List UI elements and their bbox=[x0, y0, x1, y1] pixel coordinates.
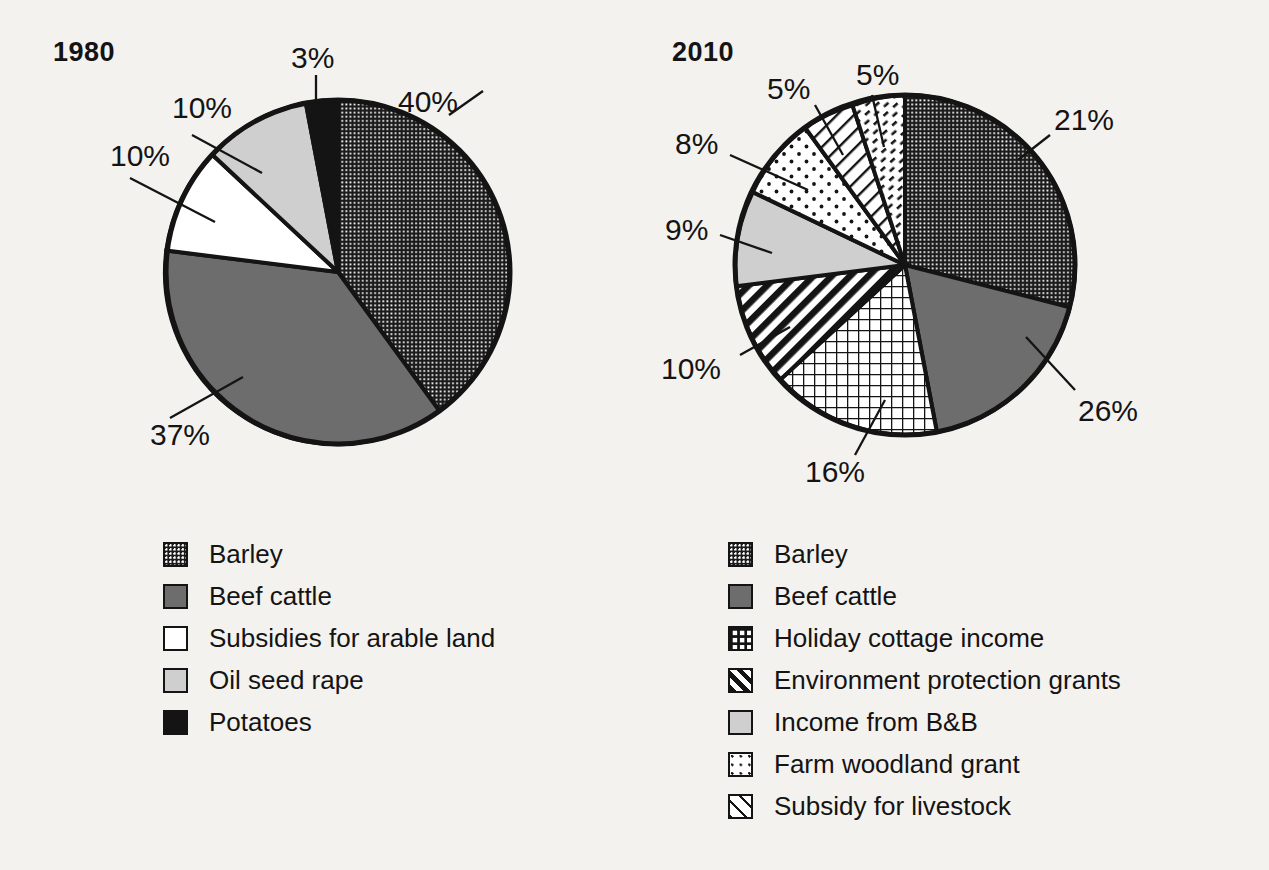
legend-label: Beef cattle bbox=[774, 583, 897, 609]
pct-label-1980-oilseed: 10% bbox=[172, 91, 232, 125]
swatch-barley-icon bbox=[163, 542, 188, 567]
pct-label-2010-woodland: 8% bbox=[675, 127, 718, 161]
legend-label: Income from B&B bbox=[774, 709, 978, 735]
pct-label-1980-barley: 40% bbox=[398, 85, 458, 119]
swatch-subsidy-for-livestock-icon bbox=[728, 794, 753, 819]
legend-label: Subsidies for arable land bbox=[209, 625, 495, 651]
legend-label: Farm woodland grant bbox=[774, 751, 1020, 777]
swatch-income-from-bnb-icon bbox=[728, 710, 753, 735]
legend-item-barley[interactable]: Barley bbox=[163, 533, 495, 575]
pct-label-2010-extra: 5% bbox=[856, 58, 899, 92]
pct-label-2010-environment: 10% bbox=[661, 352, 721, 386]
swatch-beef-cattle-icon bbox=[728, 584, 753, 609]
pct-label-2010-beef: 26% bbox=[1078, 394, 1138, 428]
swatch-oil-seed-rape-icon bbox=[163, 668, 188, 693]
legend-item-barley[interactable]: Barley bbox=[728, 533, 1121, 575]
legend-item-income-from-bnb[interactable]: Income from B&B bbox=[728, 701, 1121, 743]
swatch-potatoes-icon bbox=[163, 710, 188, 735]
swatch-beef-cattle-icon bbox=[163, 584, 188, 609]
pct-label-2010-livestock: 5% bbox=[767, 72, 810, 106]
legend-item-subsidy-for-livestock[interactable]: Subsidy for livestock bbox=[728, 785, 1121, 827]
legend-item-beef-cattle[interactable]: Beef cattle bbox=[728, 575, 1121, 617]
legend-label: Beef cattle bbox=[209, 583, 332, 609]
legend-1980: Barley Beef cattle Subsidies for arable … bbox=[163, 533, 495, 743]
legend-item-beef-cattle[interactable]: Beef cattle bbox=[163, 575, 495, 617]
legend-label: Environment protection grants bbox=[774, 667, 1121, 693]
pct-label-1980-beef: 37% bbox=[150, 418, 210, 452]
pie-2010 bbox=[735, 95, 1075, 435]
swatch-barley-icon bbox=[728, 542, 753, 567]
pct-label-1980-subsidies: 10% bbox=[110, 139, 170, 173]
pct-label-2010-barley: 21% bbox=[1054, 103, 1114, 137]
legend-2010: Barley Beef cattle Holiday cottage incom… bbox=[728, 533, 1121, 827]
legend-label: Barley bbox=[209, 541, 283, 567]
legend-label: Potatoes bbox=[209, 709, 312, 735]
swatch-environment-protection-grants-icon bbox=[728, 668, 753, 693]
legend-item-environment-protection-grants[interactable]: Environment protection grants bbox=[728, 659, 1121, 701]
legend-label: Holiday cottage income bbox=[774, 625, 1044, 651]
legend-item-subsidies-arable-land[interactable]: Subsidies for arable land bbox=[163, 617, 495, 659]
legend-item-oil-seed-rape[interactable]: Oil seed rape bbox=[163, 659, 495, 701]
page-root: 1980 2010 bbox=[0, 0, 1269, 870]
legend-label: Subsidy for livestock bbox=[774, 793, 1011, 819]
legend-item-potatoes[interactable]: Potatoes bbox=[163, 701, 495, 743]
pct-label-2010-holiday: 16% bbox=[805, 455, 865, 489]
legend-label: Barley bbox=[774, 541, 848, 567]
legend-item-farm-woodland-grant[interactable]: Farm woodland grant bbox=[728, 743, 1121, 785]
swatch-holiday-cottage-income-icon bbox=[728, 626, 753, 651]
pct-label-1980-potatoes: 3% bbox=[291, 41, 334, 75]
pct-label-2010-bnb: 9% bbox=[665, 213, 708, 247]
legend-item-holiday-cottage-income[interactable]: Holiday cottage income bbox=[728, 617, 1121, 659]
swatch-subsidies-arable-land-icon bbox=[163, 626, 188, 651]
swatch-farm-woodland-grant-icon bbox=[728, 752, 753, 777]
legend-label: Oil seed rape bbox=[209, 667, 364, 693]
